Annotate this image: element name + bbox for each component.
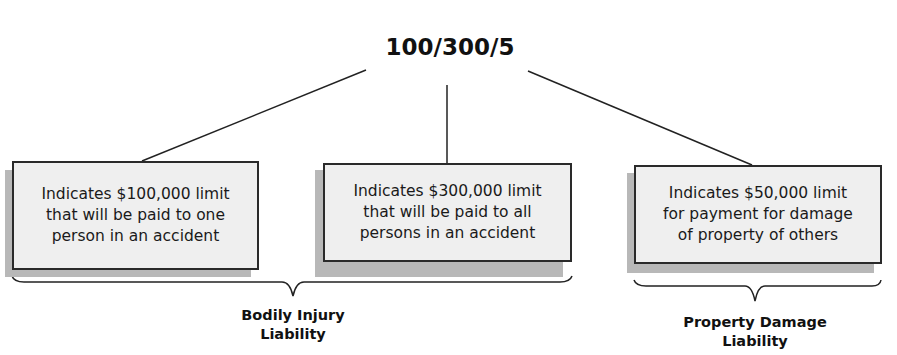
property-damage-liability-label: Property Damage Liability [665, 313, 845, 351]
box-text-line: Indicates $300,000 limit [353, 181, 541, 202]
box-text-line: Indicates $50,000 limit [663, 183, 853, 204]
box-text-line: of property of others [663, 225, 853, 246]
per-person-limit-box: Indicates $100,000 limit that will be pa… [12, 161, 259, 270]
box-text-line: person in an accident [41, 226, 229, 247]
box-text-line: persons in an accident [353, 223, 541, 244]
box-text-line: that will be paid to one [41, 205, 229, 226]
box-text-line: Indicates $100,000 limit [41, 184, 229, 205]
box-text-line: for payment for damage [663, 204, 853, 225]
per-accident-limit-box: Indicates $300,000 limit that will be pa… [323, 163, 572, 262]
property-damage-brace [634, 280, 881, 301]
box-text-line: that will be paid to all [353, 202, 541, 223]
property-damage-limit-box: Indicates $50,000 limit for payment for … [634, 165, 882, 264]
bodily-injury-liability-label: Bodily Injury Liability [213, 306, 373, 344]
bodily-injury-brace [12, 276, 572, 296]
